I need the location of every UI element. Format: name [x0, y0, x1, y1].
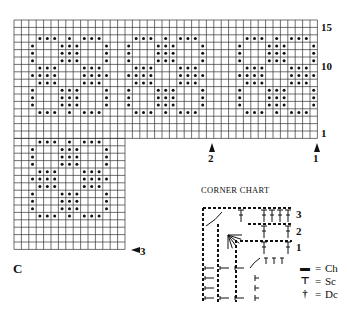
dc-symbol-icon: † [299, 288, 311, 299]
row-label-10: 10 [321, 61, 332, 72]
legend-label: Dc [325, 288, 347, 300]
filet-crochet-chart [0, 0, 347, 310]
arrow-label-2: 2 [208, 153, 214, 164]
row-label-1: 1 [321, 128, 327, 139]
legend-item-sc: ⊤ = Sc [299, 274, 347, 287]
arrow-label-1: 1 [313, 153, 319, 164]
corner-row-label-1: 1 [296, 241, 302, 253]
legend-label: Ch [325, 262, 347, 274]
corner-row-label-3: 3 [296, 208, 302, 220]
chain-symbol-icon: ▬ [299, 262, 311, 273]
chart-letter: C [13, 262, 22, 275]
arrow-label-3: 3 [140, 246, 146, 257]
corner-chart-title: CORNER CHART [201, 186, 270, 195]
legend-item-chain: ▬ = Ch [299, 261, 347, 274]
legend-label: Sc [325, 275, 347, 287]
sc-symbol-icon: ⊤ [299, 275, 311, 286]
legend-item-dc: † = Dc [299, 287, 347, 300]
row-label-15: 15 [321, 22, 332, 33]
corner-row-label-2: 2 [296, 225, 302, 237]
stitch-legend: ▬ = Ch ⊤ = Sc † = Dc [299, 261, 347, 300]
